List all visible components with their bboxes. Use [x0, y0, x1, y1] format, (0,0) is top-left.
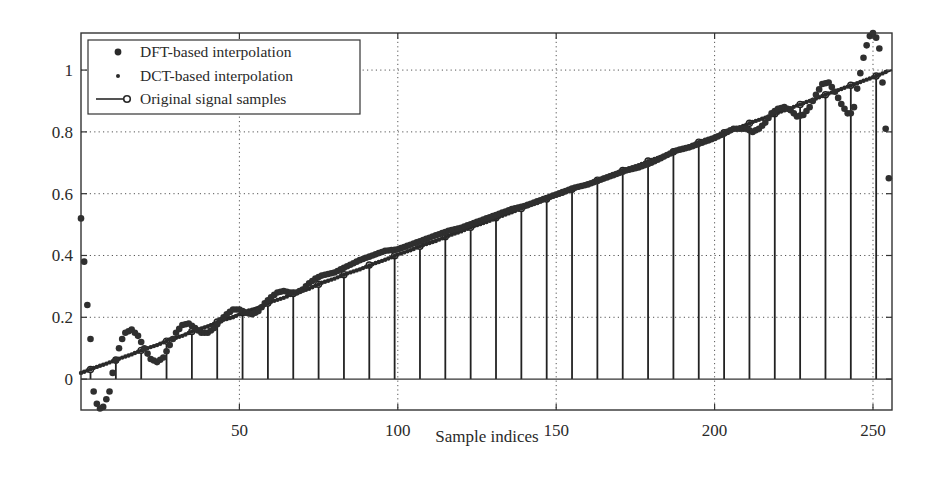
x-axis-label: Sample indices	[435, 427, 538, 446]
dft-point	[170, 336, 177, 343]
y-tick-label: 0.6	[52, 185, 73, 204]
dft-point	[100, 404, 107, 411]
dft-point	[860, 54, 867, 61]
x-tick-label: 150	[543, 421, 569, 440]
x-tick-label: 250	[860, 421, 886, 440]
dft-point	[854, 85, 861, 92]
dft-point	[832, 88, 839, 95]
x-tick-label: 50	[231, 421, 248, 440]
dft-point	[116, 345, 123, 352]
dft-point	[113, 357, 120, 364]
dft-point	[163, 348, 170, 355]
legend-label-dft: DFT-based interpolation	[140, 43, 292, 60]
y-tick-label: 1	[65, 61, 74, 80]
dft-point	[835, 95, 842, 102]
dft-point	[103, 396, 110, 403]
legend-label-dct: DCT-based interpolation	[140, 67, 293, 84]
chart: 00.20.40.60.8150100150200250 DFT-based i…	[0, 0, 934, 483]
original-legend-circle-icon	[124, 96, 131, 103]
legend-label-original: Original signal samples	[140, 90, 286, 107]
y-tick-label: 0	[65, 370, 74, 389]
dft-point	[84, 302, 91, 309]
dft-point	[119, 336, 126, 343]
dft-point	[810, 98, 817, 105]
dft-point	[106, 388, 113, 395]
dft-point	[160, 354, 167, 361]
dft-point	[873, 34, 880, 41]
dft-point	[806, 104, 813, 111]
dft-point	[882, 125, 889, 132]
dft-point	[863, 42, 870, 49]
dft-point	[876, 45, 883, 52]
dft-point	[138, 339, 145, 346]
dft-point	[848, 110, 855, 117]
dft-point	[879, 79, 886, 86]
y-tick-label: 0.2	[52, 308, 73, 327]
dft-point	[109, 370, 116, 377]
dft-point	[857, 70, 864, 77]
dft-point	[87, 336, 94, 343]
x-tick-label: 100	[385, 421, 411, 440]
y-tick-label: 0.8	[52, 123, 73, 142]
x-tick-label: 200	[702, 421, 728, 440]
dct-legend-marker-icon	[116, 74, 120, 78]
dft-point	[81, 258, 88, 265]
dft-point	[886, 175, 893, 182]
dft-point	[851, 104, 858, 111]
y-tick-label: 0.4	[52, 246, 74, 265]
dft-legend-marker-icon	[115, 49, 122, 56]
dft-point	[166, 342, 173, 349]
dft-point	[135, 333, 142, 340]
legend: DFT-based interpolation DCT-based interp…	[88, 40, 360, 114]
dft-point	[90, 388, 97, 395]
